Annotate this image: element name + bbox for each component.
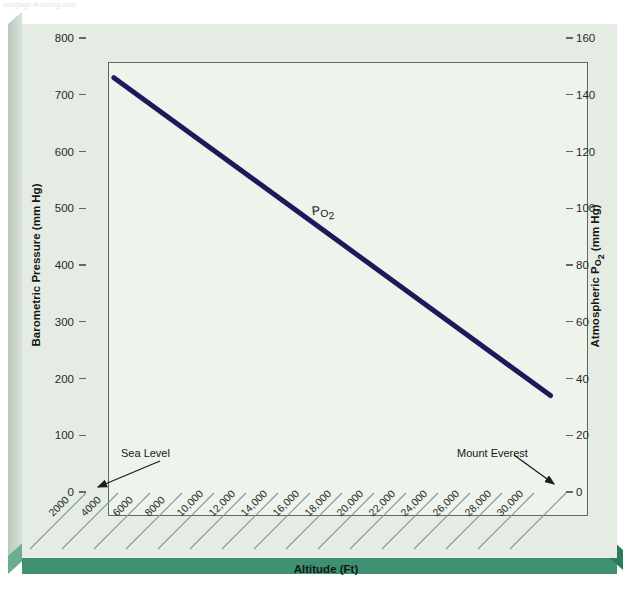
y-axis-right-title: Atmospheric PO2 (mm Hg) [589, 205, 606, 348]
chart-figure: cengage-learning.com 0100200300400500600… [0, 0, 626, 594]
y-tick-label-left: 200 [55, 373, 74, 385]
y2-title-pre: Atmospheric P [589, 266, 601, 347]
y-tick-left [79, 321, 86, 322]
y2-title-sub: O2 [594, 254, 604, 266]
annotation-sea-level: Sea Level [121, 447, 170, 459]
y-axis-left-title: Barometric Pressure (mm Hg) [30, 184, 42, 347]
y-tick-left [79, 208, 86, 209]
y-tick-label-left: 800 [55, 32, 74, 44]
y-tick-label-right: 160 [576, 32, 595, 44]
chart-card [22, 24, 617, 558]
y-tick-label-right: 60 [576, 316, 589, 328]
y-tick-label-right: 40 [576, 373, 589, 385]
annotation-mount-everest: Mount Everest [457, 447, 528, 459]
y2-title-post: (mm Hg) [589, 205, 601, 255]
y-tick-left [79, 94, 86, 95]
y-tick-label-left: 100 [55, 429, 74, 441]
y-tick-right [566, 94, 573, 95]
y-tick-label-left: 500 [55, 202, 74, 214]
x-axis-title: Altitude (Ft) [294, 563, 359, 575]
y-tick-right [566, 378, 573, 379]
y-tick-label-left: 700 [55, 89, 74, 101]
y-tick-right [566, 491, 573, 492]
y-tick-label-right: 0 [576, 486, 582, 498]
y-tick-label-left: 300 [55, 316, 74, 328]
y-tick-label-right: 20 [576, 429, 589, 441]
y-tick-left [79, 491, 86, 492]
series-label-po2: PO2 [311, 202, 335, 223]
y-tick-label-right: 140 [576, 89, 595, 101]
y-tick-right [566, 264, 573, 265]
y-tick-left [79, 37, 86, 38]
y-tick-right [566, 208, 573, 209]
y-tick-right [566, 37, 573, 38]
card-bevel-left [8, 12, 22, 564]
y-tick-right [566, 435, 573, 436]
y-tick-label-left: 0 [68, 486, 74, 498]
y-tick-label-right: 120 [576, 146, 595, 158]
y-tick-right [566, 321, 573, 322]
y-tick-label-right: 80 [576, 259, 589, 271]
y-tick-label-left: 400 [55, 259, 74, 271]
y-tick-left [79, 151, 86, 152]
y-tick-left [79, 264, 86, 265]
y-tick-left [79, 378, 86, 379]
y-tick-label-left: 600 [55, 146, 74, 158]
y-tick-right [566, 151, 573, 152]
y-tick-left [79, 435, 86, 436]
watermark-text: cengage-learning.com [3, 1, 76, 8]
series-label-sub: O2 [320, 207, 335, 219]
